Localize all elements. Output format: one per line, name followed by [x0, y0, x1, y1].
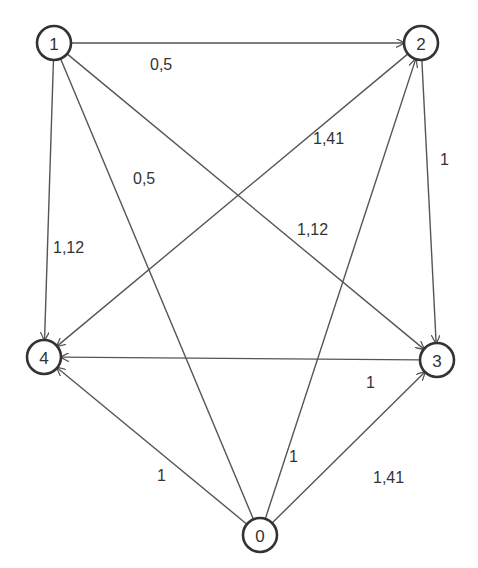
node-label: 1 [49, 35, 58, 54]
node-0: 0 [243, 518, 277, 552]
edge-weight-label: 1 [440, 151, 449, 168]
node-label: 2 [416, 35, 425, 54]
edge-weight-label: 1,41 [373, 469, 404, 486]
edge-weight-label: 0,5 [133, 170, 155, 187]
edge-weight-label: 1 [157, 467, 166, 484]
edge-0-to-2 [265, 59, 415, 519]
edge-weight-label: 1,12 [297, 221, 328, 238]
node-1: 1 [37, 26, 71, 60]
edge-2-to-3 [422, 60, 436, 343]
edge-weight-label: 1,41 [313, 130, 344, 147]
edges-layer [45, 43, 437, 524]
edge-3-to-4 [61, 357, 420, 360]
node-label: 3 [432, 352, 441, 371]
node-label: 4 [39, 349, 48, 368]
node-label: 0 [255, 527, 264, 546]
node-3: 3 [420, 343, 454, 377]
edge-weight-label: 1,12 [53, 239, 84, 256]
edge-2-to-4 [57, 54, 408, 346]
edge-weight-label: 0,5 [150, 56, 172, 73]
edge-labels-layer: 0,50,51,121,121,4111111,41 [53, 56, 449, 486]
edge-weight-label: 1 [289, 448, 298, 465]
edge-weight-label: 1 [366, 374, 375, 391]
node-2: 2 [404, 26, 438, 60]
graph-diagram: 0,50,51,121,121,4111111,41 12340 [0, 0, 478, 568]
node-4: 4 [27, 340, 61, 374]
edge-0-to-4 [57, 368, 247, 524]
edge-1-to-4 [45, 60, 54, 340]
